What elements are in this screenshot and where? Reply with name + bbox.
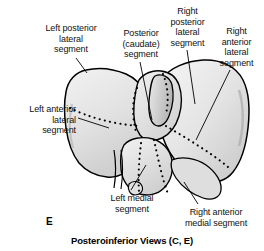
figure-caption: Posteroinferior Views (C, E) bbox=[0, 235, 264, 246]
figure-panel-e: Left posterior lateral segment Posterior… bbox=[0, 0, 264, 251]
label-posterior-caudate-segment: Posterior (caudate) segment bbox=[112, 28, 170, 60]
label-right-anterior-lateral-segment: Right anterior lateral segment bbox=[212, 26, 261, 68]
label-left-posterior-lateral-segment: Left posterior lateral segment bbox=[30, 23, 112, 55]
label-right-anterior-medial-segment: Right anterior medial segment bbox=[170, 207, 262, 228]
label-right-posterior-lateral-segment: Right posterior lateral segment bbox=[163, 6, 212, 48]
panel-letter: E bbox=[46, 216, 53, 227]
label-left-medial-segment: Left medial segment bbox=[99, 193, 165, 214]
liver-body bbox=[65, 60, 249, 199]
label-left-anterior-lateral-segment: Left anterior lateral segment bbox=[6, 104, 76, 136]
